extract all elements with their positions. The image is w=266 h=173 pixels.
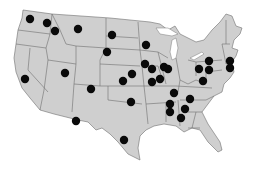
location-marker	[119, 77, 127, 85]
location-marker	[141, 60, 149, 68]
location-marker	[74, 25, 82, 33]
location-marker	[87, 85, 95, 93]
location-marker	[166, 100, 174, 108]
location-marker	[103, 48, 111, 56]
us-landmass	[14, 10, 242, 160]
location-marker	[43, 19, 51, 27]
location-marker	[205, 57, 213, 65]
location-marker	[26, 15, 34, 23]
location-marker	[186, 95, 194, 103]
location-marker	[166, 108, 174, 116]
location-marker	[21, 75, 29, 83]
location-marker	[226, 64, 234, 72]
location-marker	[128, 70, 136, 78]
us-map	[0, 0, 266, 173]
location-marker	[181, 105, 189, 113]
location-marker	[170, 89, 178, 97]
location-marker	[142, 41, 150, 49]
location-marker	[61, 69, 69, 77]
location-marker	[156, 75, 164, 83]
location-marker	[127, 98, 135, 106]
location-marker	[177, 114, 185, 122]
location-marker	[120, 136, 128, 144]
location-marker	[51, 27, 59, 35]
location-marker	[205, 66, 213, 74]
location-marker	[148, 78, 156, 86]
location-marker	[195, 65, 203, 73]
location-marker	[199, 77, 207, 85]
location-marker	[160, 63, 168, 71]
location-marker	[148, 65, 156, 73]
location-marker	[72, 117, 80, 125]
location-marker	[108, 31, 116, 39]
